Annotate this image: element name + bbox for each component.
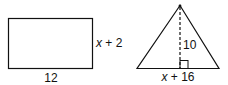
triangle-base-label: x + 16: [160, 70, 194, 84]
right-angle-marker: [180, 61, 188, 69]
geometry-figure: 12 x + 2 10 x + 16: [0, 0, 228, 84]
apex-dot: [179, 5, 182, 8]
triangle: 10 x + 16: [137, 5, 219, 84]
triangle-height-label: 10: [183, 38, 197, 52]
rectangle-shape: [9, 19, 93, 69]
rectangle-width-label: 12: [44, 71, 58, 84]
rectangle-height-label: x + 2: [95, 36, 123, 50]
rectangle: 12 x + 2: [9, 19, 123, 85]
triangle-shape: [137, 6, 219, 69]
